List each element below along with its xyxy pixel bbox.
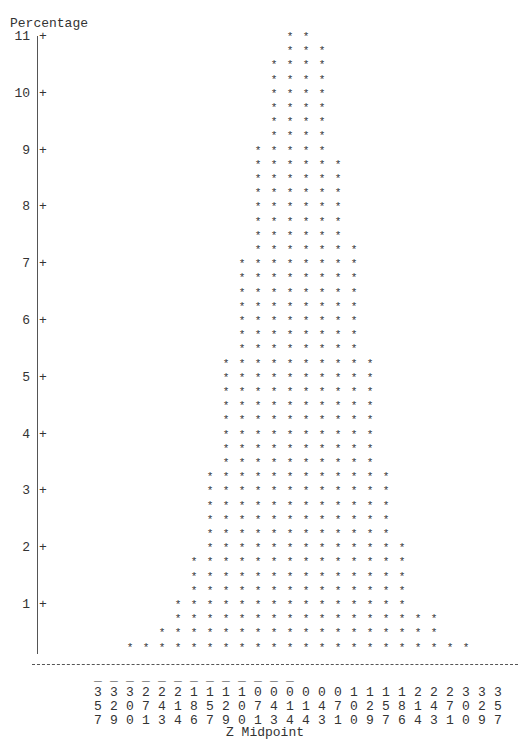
bar-symbol: * — [365, 643, 375, 654]
bar-symbol: * — [269, 529, 279, 540]
bar-symbol: * — [301, 202, 311, 213]
bar-symbol: * — [269, 557, 279, 568]
y-tick-mark: + — [38, 200, 48, 213]
bar-symbol: * — [285, 330, 295, 341]
bar-symbol: * — [269, 501, 279, 512]
y-tick-mark: + — [38, 598, 48, 611]
bar-symbol: * — [301, 316, 311, 327]
bar-symbol: * — [301, 32, 311, 43]
bar-symbol: * — [301, 231, 311, 242]
bar-symbol: * — [381, 643, 391, 654]
bar-symbol: * — [285, 117, 295, 128]
bar-symbol: * — [253, 643, 263, 654]
bar-symbol: * — [333, 472, 343, 483]
bar-symbol: * — [237, 316, 247, 327]
bar-symbol: * — [285, 529, 295, 540]
bar-symbol: * — [365, 529, 375, 540]
bar-symbol: * — [269, 174, 279, 185]
bar-symbol: * — [221, 373, 231, 384]
bar-symbol: * — [253, 188, 263, 199]
bar-symbol: * — [301, 472, 311, 483]
bar-symbol: * — [237, 330, 247, 341]
bar-symbol: * — [349, 628, 359, 639]
bar-symbol: * — [237, 458, 247, 469]
bar-symbol: * — [301, 89, 311, 100]
bar-symbol: * — [301, 373, 311, 384]
bar-symbol: * — [333, 501, 343, 512]
bar-symbol: * — [253, 231, 263, 242]
bar-symbol: * — [349, 373, 359, 384]
bar-symbol: * — [173, 643, 183, 654]
bar-symbol: * — [285, 316, 295, 327]
bar-symbol: * — [285, 543, 295, 554]
bar-symbol: * — [301, 60, 311, 71]
bar-symbol: * — [237, 302, 247, 313]
bar-symbol: * — [349, 557, 359, 568]
bar-symbol: * — [253, 444, 263, 455]
bar-symbol: * — [397, 600, 407, 611]
y-tick-mark: + — [38, 371, 48, 384]
bar-symbol: * — [317, 430, 327, 441]
bar-symbol: * — [413, 628, 423, 639]
bar-symbol: * — [285, 401, 295, 412]
bar-symbol: * — [429, 614, 439, 625]
bar-symbol: * — [301, 288, 311, 299]
bar-symbol: * — [333, 288, 343, 299]
bar-symbol: * — [349, 415, 359, 426]
bar-symbol: * — [269, 515, 279, 526]
bar-symbol: * — [301, 628, 311, 639]
bar-symbol: * — [317, 628, 327, 639]
y-tick-mark: + — [38, 541, 48, 554]
bar-symbol: * — [237, 614, 247, 625]
bar-symbol: * — [237, 359, 247, 370]
bar-symbol: * — [221, 430, 231, 441]
x-axis-line — [32, 664, 518, 665]
bar-symbol: * — [221, 643, 231, 654]
bar-symbol: * — [333, 458, 343, 469]
bar-symbol: * — [365, 415, 375, 426]
bar-symbol: * — [317, 330, 327, 341]
bar-symbol: * — [285, 643, 295, 654]
bar-symbol: * — [301, 401, 311, 412]
bar-symbol: * — [237, 486, 247, 497]
bar-symbol: * — [253, 458, 263, 469]
bar-symbol: * — [317, 316, 327, 327]
bar-symbol: * — [269, 643, 279, 654]
bar-symbol: * — [285, 103, 295, 114]
bar-symbol: * — [237, 288, 247, 299]
bar-symbol: * — [317, 586, 327, 597]
bar-symbol: * — [253, 288, 263, 299]
bar-symbol: * — [253, 472, 263, 483]
bar-symbol: * — [253, 543, 263, 554]
bar-symbol: * — [413, 614, 423, 625]
bar-symbol: * — [349, 444, 359, 455]
bar-symbol: * — [205, 501, 215, 512]
bar-symbol: * — [237, 373, 247, 384]
bar-symbol: * — [301, 643, 311, 654]
bar-symbol: * — [189, 557, 199, 568]
bar-symbol: * — [253, 202, 263, 213]
bar-symbol: * — [221, 387, 231, 398]
bar-symbol: * — [301, 458, 311, 469]
y-tick-label: 7 — [8, 257, 30, 270]
bar-symbol: * — [269, 444, 279, 455]
y-tick-mark: + — [38, 144, 48, 157]
bar-symbol: * — [253, 515, 263, 526]
bar-symbol: * — [333, 387, 343, 398]
bar-symbol: * — [333, 359, 343, 370]
bar-symbol: * — [269, 231, 279, 242]
bar-symbol: * — [333, 415, 343, 426]
bar-symbol: * — [317, 231, 327, 242]
bar-symbol: * — [365, 444, 375, 455]
bar-symbol: * — [253, 430, 263, 441]
bar-symbol: * — [317, 572, 327, 583]
bar-symbol: * — [269, 387, 279, 398]
bar-symbol: * — [349, 288, 359, 299]
bar-symbol: * — [365, 515, 375, 526]
bar-symbol: * — [317, 401, 327, 412]
bar-symbol: * — [237, 643, 247, 654]
bar-symbol: * — [269, 103, 279, 114]
bar-symbol: * — [285, 245, 295, 256]
bar-symbol: * — [333, 245, 343, 256]
bar-symbol: * — [317, 288, 327, 299]
